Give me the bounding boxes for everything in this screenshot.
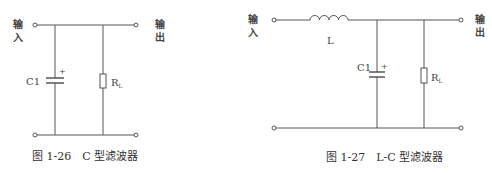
output-terminal-bottom: [459, 126, 463, 130]
capacitor-c1: [369, 20, 385, 128]
input-label-bottom: 入: [13, 32, 23, 43]
input-terminal-bottom: [33, 133, 37, 137]
c-filter-diagram: 输 入 输 出 C1 + RL 图 1-26 C 型滤波器: [13, 18, 166, 163]
input-label-bottom: 入: [248, 27, 258, 38]
inductor-label: L: [327, 35, 334, 46]
figure-caption: 图 1-26 C 型滤波器: [32, 149, 138, 163]
input-terminal-bottom: [272, 126, 276, 130]
lc-filter-diagram: 输 入 输 出 L C1 + RL: [248, 13, 486, 164]
output-terminal-top: [459, 18, 463, 22]
input-terminal-top: [33, 23, 37, 27]
output-label-bottom: 出: [155, 31, 165, 43]
output-terminal-bottom: [134, 133, 138, 137]
output-label-top: 输: [475, 13, 486, 25]
input-terminal-top: [272, 18, 276, 22]
resistor-label: RL: [111, 77, 123, 89]
capacitor-polarity: +: [381, 62, 388, 71]
output-label-top: 输: [155, 18, 166, 30]
inductor-l: [310, 16, 348, 20]
resistor-rl: [100, 25, 106, 135]
resistor-rl: [421, 20, 427, 128]
output-terminal-top: [134, 23, 138, 27]
capacitor-polarity: +: [59, 67, 66, 76]
output-label-bottom: 出: [475, 26, 485, 38]
resistor-label: RL: [431, 72, 443, 84]
input-label-top: 输: [248, 13, 259, 25]
capacitor-label: C1: [357, 62, 371, 73]
capacitor-label: C1: [26, 76, 40, 87]
input-label-top: 输: [13, 18, 24, 30]
figure-caption: 图 1-27 L-C 型滤波器: [326, 150, 443, 164]
capacitor-c1: [46, 25, 64, 135]
